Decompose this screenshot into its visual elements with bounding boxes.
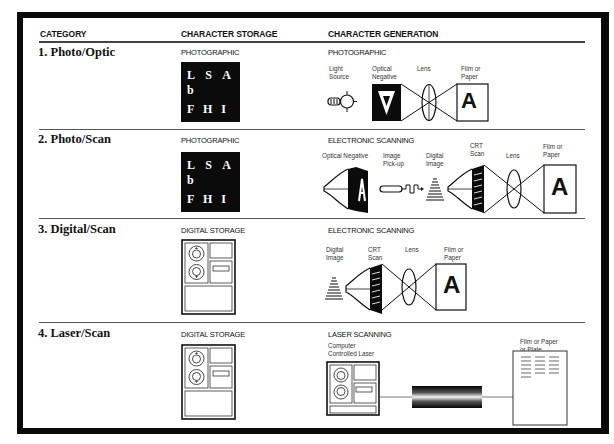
digital-storage-icon-4 — [181, 344, 236, 420]
output-glyph-1: A — [461, 88, 477, 114]
label-lens-2: Lens — [506, 152, 520, 160]
digital-scan-pipeline — [325, 264, 505, 314]
label-optical-negative: OpticalNegative — [372, 65, 397, 80]
label-lens-3: Lens — [405, 246, 419, 254]
storage-type-2: PHOTOGRAPHIC — [181, 136, 239, 145]
generation-type-4: LASER SCANNING — [328, 330, 391, 339]
category-photo-scan: 2. Photo/Scan — [38, 132, 111, 147]
category-laser-scan: 4. Laser/Scan — [38, 326, 110, 341]
negative-film-icon — [356, 167, 368, 213]
label-computer-controlled-laser: ComputerControlled Laser — [328, 342, 374, 357]
label-crt-scan-3: CRTScan — [368, 246, 382, 261]
label-light-source: LightSource — [329, 65, 349, 80]
generation-type-2: ELECTRONIC SCANNING — [328, 136, 414, 145]
label-optical-negative-2: Optical Negative — [322, 152, 368, 160]
row-divider-1 — [39, 129, 585, 130]
light-source-icon — [326, 86, 362, 120]
digital-storage-icon-3 — [181, 239, 236, 315]
header-divider — [39, 41, 585, 43]
photographic-storage-grid-2: L S A b F H I v — [181, 152, 240, 212]
header-character-generation: CHARACTER GENERATION — [328, 29, 438, 39]
label-film-paper-3: Film orPaper — [444, 246, 463, 261]
label-film-paper-2: Film orPaper — [543, 143, 562, 158]
generation-type-1: PHOTOGRAPHIC — [328, 48, 386, 57]
storage-chars-top: L S A b — [187, 68, 240, 98]
row-divider-2 — [39, 218, 585, 219]
photographic-storage-grid-1: L S A b F H I v — [181, 62, 240, 122]
label-crt-scan-2: CRTScan — [470, 142, 484, 157]
header-category: CATEGORY — [40, 29, 86, 39]
film-paper-plate-icon — [513, 351, 567, 425]
storage-type-4: DIGITAL STORAGE — [181, 330, 245, 339]
digital-image-glyph-3 — [325, 278, 343, 299]
generation-type-3: ELECTRONIC SCANNING — [328, 226, 414, 235]
storage-chars-bottom: F H I v — [187, 102, 240, 132]
label-film-paper-1: Film orPaper — [461, 65, 480, 80]
laser-scan-pipeline — [326, 361, 596, 431]
category-photo-optic: 1. Photo/Optic — [38, 45, 115, 60]
label-digital-image-3: DigitalImage — [326, 246, 344, 261]
output-glyph-3: A — [443, 271, 460, 299]
category-digital-scan: 3. Digital/Scan — [38, 222, 116, 237]
computer-laser-icon — [327, 362, 379, 415]
signal-wave-icon — [402, 185, 422, 193]
label-lens-1: Lens — [417, 65, 431, 73]
digital-image-glyph — [426, 179, 444, 200]
output-glyph-2: A — [551, 173, 568, 201]
laser-beam-icon — [412, 386, 482, 408]
row-divider-3 — [39, 322, 585, 323]
image-pickup-tube-icon — [380, 186, 402, 192]
storage-type-1: PHOTOGRAPHIC — [181, 48, 239, 57]
header-character-storage: CHARACTER STORAGE — [181, 29, 277, 39]
storage-type-3: DIGITAL STORAGE — [181, 226, 245, 235]
